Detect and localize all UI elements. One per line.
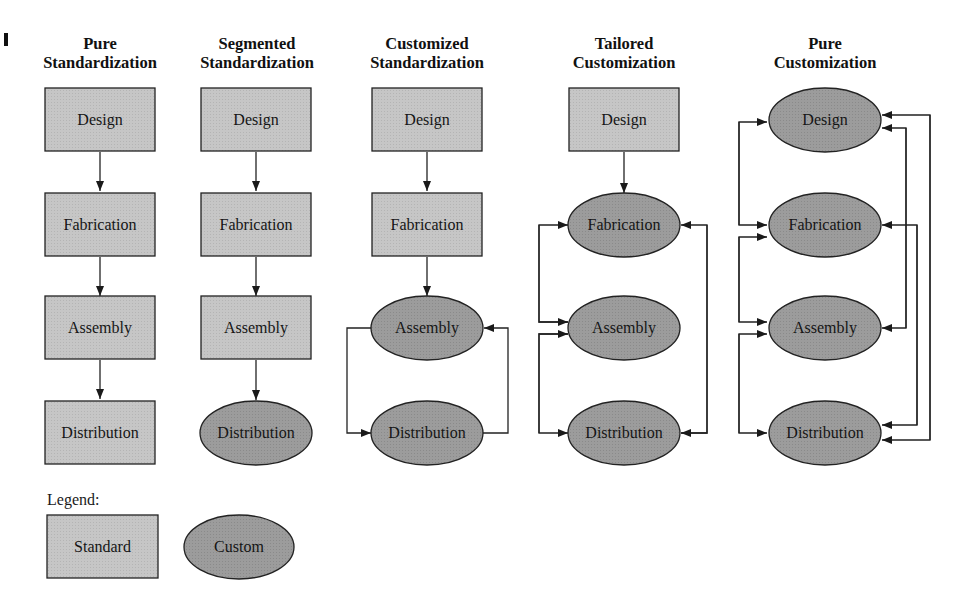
node-label: Design xyxy=(77,111,122,129)
node-label: Distribution xyxy=(786,424,863,441)
loop-arrow xyxy=(739,237,767,322)
node-label: Distribution xyxy=(61,424,138,441)
node-layer: DesignFabricationAssemblyDistributionDes… xyxy=(45,88,881,465)
loop-arrow xyxy=(739,334,767,433)
loop-arrow xyxy=(882,225,917,425)
loop-arrow xyxy=(681,225,707,433)
legend-custom-label: Custom xyxy=(214,538,264,555)
loop-arrow xyxy=(539,225,568,322)
loop-arrow xyxy=(739,334,767,433)
node-label: Assembly xyxy=(793,319,857,337)
node-label: Fabrication xyxy=(220,216,293,233)
loop-arrow xyxy=(681,225,707,433)
node-label: Fabrication xyxy=(64,216,137,233)
legend: Standard Custom xyxy=(47,515,294,579)
loop-arrow xyxy=(483,328,508,433)
loop-arrow xyxy=(882,225,917,425)
node-label: Fabrication xyxy=(789,216,862,233)
loop-arrow xyxy=(539,225,568,322)
node-label: Distribution xyxy=(585,424,662,441)
node-label: Fabrication xyxy=(391,216,464,233)
loop-arrow xyxy=(539,334,568,433)
loop-arrow xyxy=(739,122,767,225)
node-label: Fabrication xyxy=(588,216,661,233)
loop-arrow xyxy=(539,334,568,433)
node-label: Assembly xyxy=(592,319,656,337)
node-label: Assembly xyxy=(395,319,459,337)
loop-arrow xyxy=(882,128,906,328)
node-label: Distribution xyxy=(388,424,465,441)
node-label: Design xyxy=(233,111,278,129)
legend-standard-label: Standard xyxy=(74,538,131,555)
node-label: Assembly xyxy=(224,319,288,337)
loop-arrow xyxy=(347,328,372,433)
node-label: Design xyxy=(802,111,847,129)
node-label: Assembly xyxy=(68,319,132,337)
node-label: Distribution xyxy=(217,424,294,441)
loop-arrow xyxy=(739,122,767,225)
diagram-canvas: DesignFabricationAssemblyDistributionDes… xyxy=(0,0,953,615)
node-label: Design xyxy=(404,111,449,129)
node-label: Design xyxy=(601,111,646,129)
legend-title: Legend: xyxy=(47,491,99,509)
loop-arrow xyxy=(882,128,906,328)
loop-arrow xyxy=(739,237,767,322)
